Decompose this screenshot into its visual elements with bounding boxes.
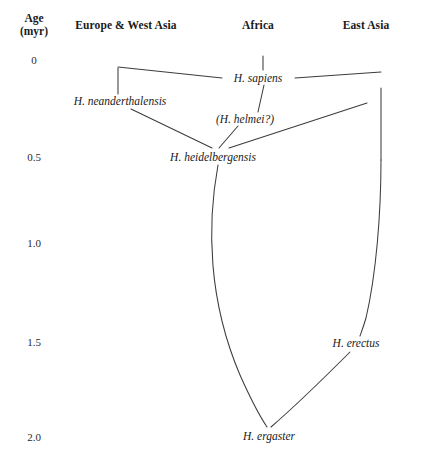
branch-neanderthalensis-to-heidelbergensis	[131, 109, 212, 148]
tree-branch-lines	[0, 0, 421, 460]
branch-erectus-to-ergaster	[271, 352, 350, 427]
phylogenetic-tree-figure: Age (myr) Europe & West Asia Africa East…	[0, 0, 421, 460]
age-tick-0: 0	[31, 54, 37, 66]
axis-title-line1: Age	[20, 12, 48, 25]
age-tick-2-0: 2.0	[27, 431, 41, 443]
branch-helmei-to-sapiens	[258, 85, 264, 112]
age-tick-0-5: 0.5	[27, 151, 41, 163]
branch-heidelbergensis-to-ergaster	[212, 165, 267, 427]
axis-title-line2: (myr)	[20, 25, 48, 38]
column-header-east-asia: East Asia	[343, 19, 390, 31]
column-header-africa: Africa	[242, 19, 274, 31]
branch-heidelbergensis-to-helmei	[219, 126, 238, 148]
axis-title: Age (myr)	[20, 12, 48, 38]
age-tick-1-5: 1.5	[27, 336, 41, 348]
taxon-label-h-helmei: (H. helmei?)	[214, 113, 276, 125]
taxon-label-h-neanderthalensis: H. neanderthalensis	[72, 95, 169, 107]
branch-heidelbergensis-to-eastasia	[229, 103, 367, 148]
taxon-label-h-sapiens: H. sapiens	[232, 72, 285, 84]
branch-eastasia-to-erectus	[360, 160, 381, 336]
column-header-europe-west-asia: Europe & West Asia	[75, 19, 176, 31]
branch-sapiens-to-eastasia-top	[295, 72, 381, 78]
taxon-label-h-heidelbergensis: H. heidelbergensis	[168, 151, 258, 163]
taxon-label-h-erectus: H. erectus	[331, 337, 382, 349]
branch-sapiens-to-westasia-top	[118, 67, 222, 78]
taxon-label-h-ergaster: H. ergaster	[241, 430, 297, 442]
age-tick-1-0: 1.0	[27, 237, 41, 249]
